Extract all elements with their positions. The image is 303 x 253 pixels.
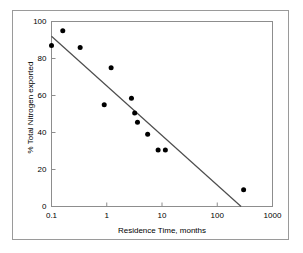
x-tick-label: 0.1 (40, 211, 64, 220)
x-tick-label: 100 (205, 211, 229, 220)
y-tick-label: 100 (22, 17, 47, 26)
data-points (49, 28, 246, 192)
regression-line (52, 36, 242, 206)
x-axis-title: Residence Time, months (51, 226, 273, 235)
data-point (145, 132, 150, 137)
data-point (135, 120, 140, 125)
data-point (163, 148, 168, 153)
data-point (102, 102, 107, 107)
data-point (49, 43, 54, 48)
data-point (241, 187, 246, 192)
data-point (60, 28, 65, 33)
data-point (78, 45, 83, 50)
x-tick-label: 1000 (261, 211, 285, 220)
data-point (156, 148, 161, 153)
figure-container: 0.11101001000 020406080100 % Total Nitro… (0, 0, 303, 253)
y-axis-title: % Total Nitrogen exported (26, 38, 35, 178)
x-tick-label: 10 (150, 211, 174, 220)
data-point (109, 65, 114, 70)
data-point (129, 96, 134, 101)
tick-marks (52, 22, 273, 207)
x-tick-label: 1 (95, 211, 119, 220)
y-tick-label: 0 (22, 202, 47, 211)
data-point (132, 111, 137, 116)
trend-line (52, 36, 242, 206)
